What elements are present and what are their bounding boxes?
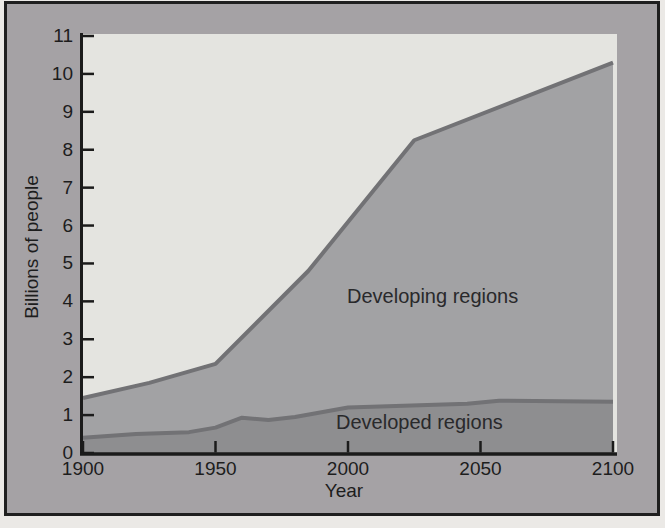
y-tick-label: 9 bbox=[27, 102, 73, 121]
developing-regions-label: Developing regions bbox=[347, 286, 518, 306]
x-tick-label: 2100 bbox=[583, 459, 643, 478]
y-tick-label: 3 bbox=[27, 329, 73, 348]
y-axis-title: Billions of people bbox=[22, 175, 41, 319]
x-tick-label: 1950 bbox=[186, 459, 246, 478]
y-tick-label: 8 bbox=[27, 140, 73, 159]
x-tick-label: 2050 bbox=[451, 459, 511, 478]
x-axis-title: Year bbox=[325, 481, 363, 500]
developed-regions-label: Developed regions bbox=[336, 412, 503, 432]
figure-page: 01234567891011 19001950200020502100 Bill… bbox=[0, 0, 665, 528]
x-tick-label: 1900 bbox=[53, 459, 113, 478]
population-area-chart bbox=[0, 0, 665, 528]
y-tick-label: 2 bbox=[27, 367, 73, 386]
y-tick-label: 11 bbox=[27, 26, 73, 45]
x-tick-label: 2000 bbox=[318, 459, 378, 478]
y-tick-label: 1 bbox=[27, 405, 73, 424]
y-tick-label: 10 bbox=[27, 64, 73, 83]
